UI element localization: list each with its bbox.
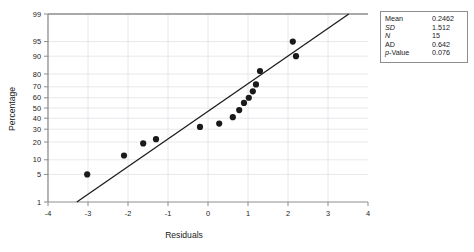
plot-area: -4-3-2-101234 151020304050607080909599 R… xyxy=(0,0,474,252)
svg-text:10: 10 xyxy=(33,155,41,164)
svg-text:40: 40 xyxy=(33,114,41,123)
svg-text:1: 1 xyxy=(37,198,41,207)
probability-plot-screenshot: -4-3-2-101234 151020304050607080909599 R… xyxy=(0,0,474,252)
svg-text:99: 99 xyxy=(33,10,41,19)
statistics-box: Mean0.2462SD1.512N15AD0.642p-Value0.076 xyxy=(380,11,468,63)
svg-text:5: 5 xyxy=(37,170,41,179)
svg-text:1: 1 xyxy=(246,209,250,218)
y-axis-title: Percentage xyxy=(7,61,17,157)
svg-text:-3: -3 xyxy=(85,209,92,218)
svg-text:4: 4 xyxy=(366,209,370,218)
y-axis-ticks: 151020304050607080909599 xyxy=(33,10,48,207)
svg-text:-4: -4 xyxy=(45,209,52,218)
stats-row: p-Value0.076 xyxy=(385,49,463,58)
stats-label: p-Value xyxy=(385,49,409,58)
stats-row: N15 xyxy=(385,32,463,41)
svg-text:70: 70 xyxy=(33,82,41,91)
svg-text:90: 90 xyxy=(33,52,41,61)
svg-text:80: 80 xyxy=(33,70,41,79)
svg-text:3: 3 xyxy=(326,209,330,218)
x-axis-ticks: -4-3-2-101234 xyxy=(45,202,370,218)
gridlines xyxy=(48,14,368,202)
svg-text:60: 60 xyxy=(33,93,41,102)
stats-row: Mean0.2462 xyxy=(385,15,463,24)
svg-text:50: 50 xyxy=(33,104,41,113)
svg-text:-2: -2 xyxy=(125,209,132,218)
svg-text:2: 2 xyxy=(286,209,290,218)
x-axis-title: Residuals xyxy=(0,230,368,240)
stats-value: 0.076 xyxy=(432,49,463,58)
svg-text:30: 30 xyxy=(33,125,41,134)
svg-text:20: 20 xyxy=(33,138,41,147)
stats-row: SD1.512 xyxy=(385,24,463,33)
svg-text:95: 95 xyxy=(33,37,41,46)
svg-text:-1: -1 xyxy=(165,209,172,218)
svg-text:0: 0 xyxy=(206,209,210,218)
